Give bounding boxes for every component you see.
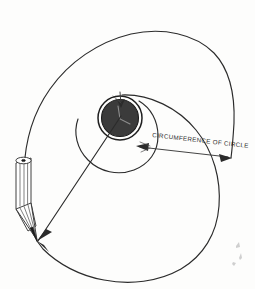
circumference-diagram: CIRCUMFERENCE OF CIRCLE — [0, 0, 255, 289]
figure-root: CIRCUMFERENCE OF CIRCLE — [0, 0, 255, 289]
pencil-lead-dot — [22, 159, 26, 161]
